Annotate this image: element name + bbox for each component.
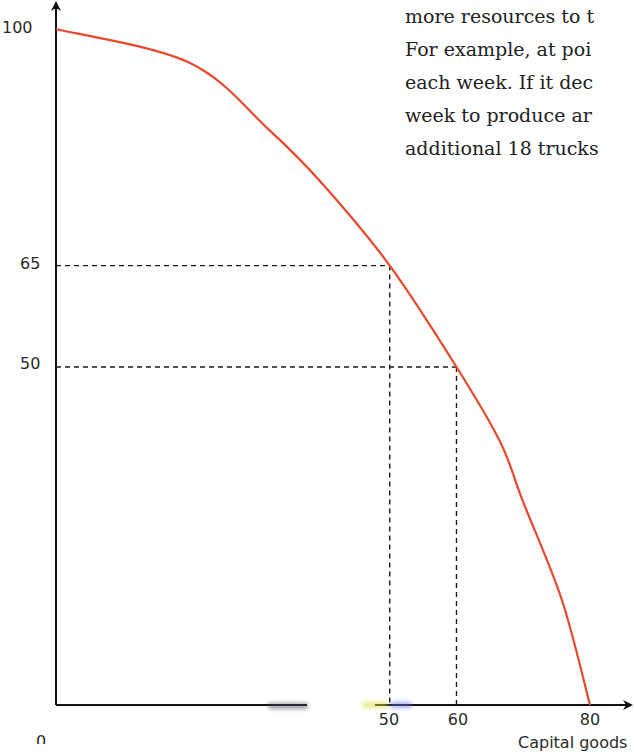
- origin-label: 0: [32, 734, 48, 744]
- reference-lines: [56, 266, 457, 705]
- y-tick-50: 50: [20, 356, 40, 372]
- x-tick-50: 50: [379, 712, 399, 728]
- axis-smudge-dark: [268, 703, 308, 709]
- x-tick-60: 60: [448, 712, 468, 728]
- body-text-line: more resources to t: [405, 0, 634, 33]
- body-text-block: more resources to t For example, at poi …: [405, 0, 634, 165]
- y-tick-100: 100: [2, 20, 33, 36]
- body-text-line: week to produce ar: [405, 99, 634, 132]
- x-tick-80: 80: [580, 712, 600, 728]
- body-text-line: each week. If it dec: [405, 66, 634, 99]
- y-tick-65: 65: [20, 256, 40, 272]
- axis-smudge-blue: [390, 702, 412, 708]
- axis-smudge-yellow: [362, 702, 388, 708]
- body-text-line: additional 18 trucks: [405, 132, 634, 165]
- x-axis-title: Capital goods: [518, 733, 627, 752]
- body-text-line: For example, at poi: [405, 33, 634, 66]
